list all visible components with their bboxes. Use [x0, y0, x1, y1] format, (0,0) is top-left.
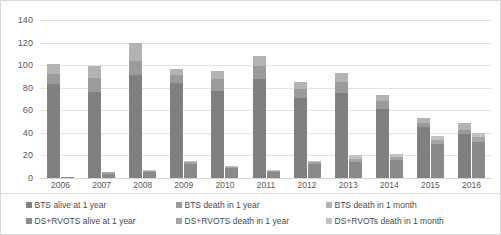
bar-segment [335, 82, 348, 93]
bar-segment [170, 69, 183, 76]
legend-item[interactable]: BTS alive at 1 year [26, 200, 176, 210]
bar-bts-2016 [458, 123, 471, 178]
bar-ds-rvots-2010 [225, 166, 238, 178]
bar-segment [170, 75, 183, 83]
bar-segment [211, 71, 224, 79]
bar-group-2014 [376, 20, 403, 178]
bar-segment [61, 177, 74, 178]
bar-segment [349, 162, 362, 178]
x-axis: 2006200720082009201020112012201320142015… [40, 179, 492, 193]
bar-segment [88, 78, 101, 93]
legend-item[interactable]: BTS death in 1 month [326, 200, 476, 210]
bar-segment [294, 89, 307, 98]
bar-segment [211, 91, 224, 178]
bar-ds-rvots-2008 [143, 170, 156, 178]
y-axis-tick-80: 80 [23, 83, 33, 93]
bar-group-2015 [417, 20, 444, 178]
legend-item[interactable]: DS+RVOTS death in 1 year [176, 216, 326, 226]
bar-group-2009 [170, 20, 197, 178]
x-axis-tick-2010: 2010 [215, 180, 234, 190]
bar-segment [88, 92, 101, 178]
bar-segment [88, 66, 101, 77]
plot-area [40, 20, 492, 178]
legend-swatch-icon [26, 202, 32, 208]
y-axis: 020406080100120140 [1, 20, 37, 178]
bar-segment [143, 172, 156, 178]
legend-swatch-icon [176, 218, 182, 224]
bar-segment [47, 64, 60, 74]
bar-segment [458, 123, 471, 130]
bar-ds-rvots-2009 [184, 161, 197, 178]
legend-swatch-icon [176, 202, 182, 208]
legend-label: DS+RVOTS alive at 1 year [35, 216, 136, 226]
bar-ds-rvots-2014 [390, 154, 403, 178]
x-axis-tick-2012: 2012 [298, 180, 317, 190]
bar-group-2012 [294, 20, 321, 178]
legend-label: BTS death in 1 month [335, 200, 417, 210]
bar-segment [253, 79, 266, 178]
bar-segment [47, 74, 60, 84]
bar-segment [211, 79, 224, 91]
bar-segment [294, 98, 307, 178]
bar-group-2011 [253, 20, 280, 178]
bar-bts-2015 [417, 118, 430, 178]
legend-row-1: BTS alive at 1 yearBTS death in 1 yearBT… [1, 197, 500, 213]
bar-segment [431, 144, 444, 178]
bar-group-2008 [129, 20, 156, 178]
legend-label: DS+RVOTs death in 1 month [335, 216, 444, 226]
x-axis-tick-2014: 2014 [380, 180, 399, 190]
bar-ds-rvots-2007 [102, 172, 115, 178]
legend-item[interactable]: BTS death in 1 year [176, 200, 326, 210]
y-axis-tick-20: 20 [23, 150, 33, 160]
bar-bts-2013 [335, 73, 348, 178]
legend-swatch-icon [26, 218, 32, 224]
bar-segment [376, 101, 389, 109]
bar-segment [129, 61, 142, 76]
legend-row-2: DS+RVOTS alive at 1 yearDS+RVOTS death i… [1, 213, 500, 229]
legend-swatch-icon [326, 202, 332, 208]
x-axis-tick-2011: 2011 [257, 180, 275, 190]
bar-segment [253, 56, 266, 66]
bar-ds-rvots-2013 [349, 155, 362, 178]
bar-ds-rvots-2015 [431, 136, 444, 178]
bar-bts-2009 [170, 69, 183, 178]
y-axis-tick-60: 60 [23, 105, 33, 115]
chart-legend: BTS alive at 1 yearBTS death in 1 yearBT… [1, 193, 500, 233]
bar-bts-2006 [47, 64, 60, 178]
legend-swatch-icon [326, 218, 332, 224]
x-axis-tick-2008: 2008 [133, 180, 152, 190]
bar-segment [129, 75, 142, 178]
bar-group-2016 [458, 20, 485, 178]
y-axis-tick-0: 0 [28, 173, 33, 183]
bar-ds-rvots-2016 [472, 133, 485, 178]
bar-segment [335, 73, 348, 82]
bar-bts-2014 [376, 95, 389, 179]
bar-segment [129, 43, 142, 61]
y-axis-tick-140: 140 [18, 15, 33, 25]
x-axis-tick-2007: 2007 [92, 180, 111, 190]
x-axis-tick-2013: 2013 [339, 180, 358, 190]
bar-bts-2007 [88, 66, 101, 178]
y-axis-tick-120: 120 [18, 38, 33, 48]
x-axis-tick-2009: 2009 [174, 180, 193, 190]
legend-item[interactable]: DS+RVOTs death in 1 month [326, 216, 476, 226]
y-axis-tick-100: 100 [18, 60, 33, 70]
bar-group-2013 [335, 20, 362, 178]
bar-group-2010 [211, 20, 238, 178]
bar-segment [376, 109, 389, 178]
bar-segment [472, 142, 485, 178]
legend-item[interactable]: DS+RVOTS alive at 1 year [26, 216, 176, 226]
bar-segment [308, 164, 321, 178]
y-axis-tick-40: 40 [23, 128, 33, 138]
bar-ds-rvots-2006 [61, 177, 74, 178]
bar-bts-2011 [253, 56, 266, 178]
bar-ds-rvots-2012 [308, 161, 321, 178]
bar-segment [47, 84, 60, 178]
bar-segment [294, 82, 307, 89]
bar-segment [102, 174, 115, 179]
bar-segment [335, 93, 348, 178]
bar-segment [458, 134, 471, 178]
legend-label: BTS death in 1 year [185, 200, 260, 210]
bar-ds-rvots-2011 [267, 170, 280, 178]
bar-bts-2010 [211, 71, 224, 178]
